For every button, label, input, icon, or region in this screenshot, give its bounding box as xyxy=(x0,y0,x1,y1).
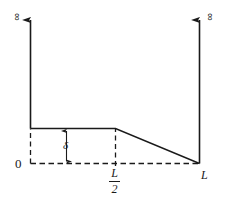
L-tick-label: L xyxy=(201,169,208,181)
half-L-denominator: 2 xyxy=(110,182,120,196)
infinity-label-left: ∞ xyxy=(11,13,22,21)
potential-well-figure: ∞ ∞ 0 δ L 2 L xyxy=(0,0,225,200)
infinity-label-right: ∞ xyxy=(204,13,215,21)
delta-label: δ xyxy=(63,140,68,151)
half-L-tick-label: L 2 xyxy=(109,167,120,195)
origin-label: 0 xyxy=(15,157,22,170)
half-L-numerator: L xyxy=(109,167,120,181)
